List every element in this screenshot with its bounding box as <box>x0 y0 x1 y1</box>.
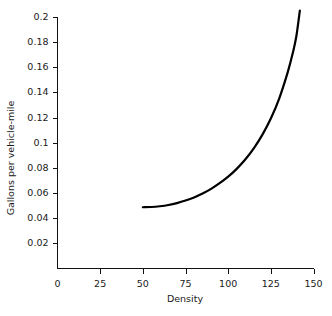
y-tick-label: 0.02 <box>27 239 48 249</box>
y-tick-label: 0.14 <box>27 88 48 98</box>
x-tick-label: 150 <box>304 279 322 289</box>
y-tick-label: 0.06 <box>27 188 48 198</box>
data-curve-0 <box>143 11 300 208</box>
axes-group <box>58 17 314 269</box>
y-axis-title-text: Gallons per vehicle-mile <box>5 78 16 238</box>
y-tick-label: 0.08 <box>27 163 48 173</box>
y-tick-label: 0.18 <box>27 37 48 47</box>
y-tick-label: 0.04 <box>27 213 48 223</box>
chart-figure: 0.020.040.060.080.10.120.140.160.180.2 0… <box>0 0 332 316</box>
y-tick-label: 0.12 <box>27 113 48 123</box>
x-tick-label: 50 <box>137 279 149 289</box>
x-tick-label: 125 <box>262 279 280 289</box>
data-series-group <box>143 11 300 208</box>
x-tick-marks <box>101 269 315 274</box>
x-tick-label: 25 <box>94 279 106 289</box>
y-tick-label: 0.1 <box>33 138 48 148</box>
x-tick-label: 75 <box>179 279 191 289</box>
y-tick-label: 0.2 <box>33 12 48 22</box>
y-tick-label: 0.16 <box>27 62 48 72</box>
y-tick-marks <box>53 18 58 244</box>
x-axis-title: Density <box>167 293 203 304</box>
y-axis-title: Gallons per vehicle-mile <box>5 78 16 238</box>
x-tick-label: 0 <box>54 279 60 289</box>
x-tick-label: 100 <box>219 279 237 289</box>
chart-plot-area <box>0 0 332 316</box>
